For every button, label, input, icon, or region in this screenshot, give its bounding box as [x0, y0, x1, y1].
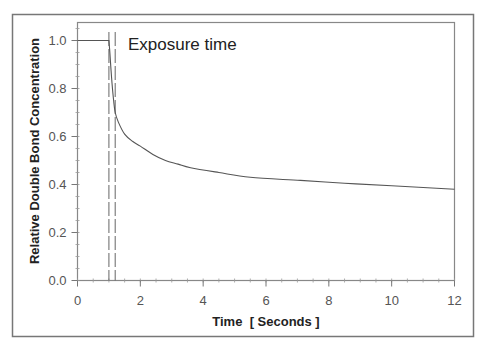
x-tick-label: 4	[200, 293, 207, 308]
x-tick-label: 6	[262, 293, 269, 308]
chart-canvas: 0.00.20.40.60.81.0 024681012 Exposure ti…	[0, 0, 484, 346]
y-tick-label: 0.4	[48, 177, 66, 192]
x-axis-title: Time [ Seconds ]	[212, 314, 319, 329]
x-tick-label: 10	[384, 293, 398, 308]
y-tick-label: 0.8	[48, 81, 66, 96]
chart-figure: 0.00.20.40.60.81.0 024681012 Exposure ti…	[0, 0, 484, 346]
x-tick-label: 12	[447, 293, 461, 308]
y-axis-title: Relative Double Bond Concentration	[27, 38, 42, 264]
x-tick-label: 8	[325, 293, 332, 308]
x-tick-label: 2	[137, 293, 144, 308]
y-tick-label: 0.6	[48, 129, 66, 144]
plot-area	[78, 23, 455, 281]
x-tick-label: 0	[74, 293, 81, 308]
y-tick-label: 1.0	[48, 33, 66, 48]
exposure-time-label: Exposure time	[128, 35, 237, 54]
y-tick-label: 0.0	[48, 273, 66, 288]
y-tick-label: 0.2	[48, 225, 66, 240]
